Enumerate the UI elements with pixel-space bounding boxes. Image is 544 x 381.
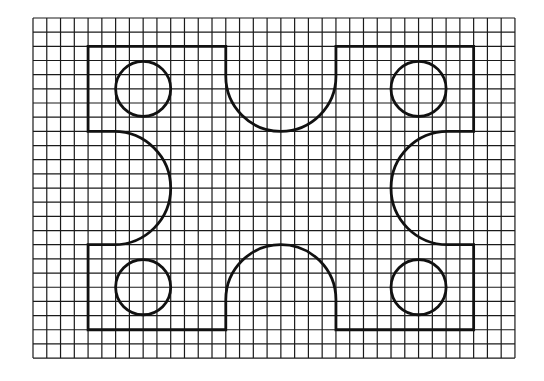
diagram-canvas [0,0,544,381]
grid-lines [33,18,515,358]
grid-shape-drawing [0,0,544,381]
